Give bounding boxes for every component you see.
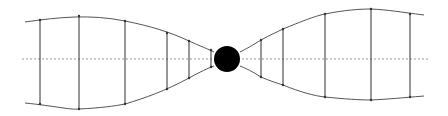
chord-endpoint-dot xyxy=(210,66,212,68)
left-upper-envelope xyxy=(25,17,214,52)
diagram-canvas xyxy=(0,0,448,116)
chord-endpoint-dot xyxy=(324,13,326,15)
chord-endpoint-dot xyxy=(124,103,126,105)
chord-endpoint-dot xyxy=(188,40,190,42)
chord-endpoint-dot xyxy=(78,15,80,17)
chord-endpoint-dot xyxy=(210,49,212,51)
chord-endpoint-dot xyxy=(282,84,284,86)
chord-endpoint-dot xyxy=(409,13,411,15)
chord-endpoint-dot xyxy=(282,28,284,30)
chord-endpoint-dot xyxy=(409,96,411,98)
chord-endpoint-dot xyxy=(370,99,372,101)
right-upper-envelope xyxy=(240,9,424,52)
chord-endpoint-dot xyxy=(188,77,190,79)
chord-endpoint-dot xyxy=(260,39,262,41)
chord-endpoint-dot xyxy=(166,88,168,90)
left-lower-envelope xyxy=(25,66,214,109)
chord-endpoint-dot xyxy=(370,8,372,10)
chord-endpoint-dot xyxy=(166,32,168,34)
chord-endpoint-dot xyxy=(324,96,326,98)
chord-endpoint-dot xyxy=(78,108,80,110)
central-sphere xyxy=(214,46,240,72)
right-lower-envelope xyxy=(240,66,424,100)
chord-endpoint-dot xyxy=(39,19,41,21)
chord-endpoint-dot xyxy=(124,20,126,22)
beam-diagram xyxy=(0,0,448,116)
chord-endpoint-dot xyxy=(39,103,41,105)
chord-endpoint-dot xyxy=(260,76,262,78)
